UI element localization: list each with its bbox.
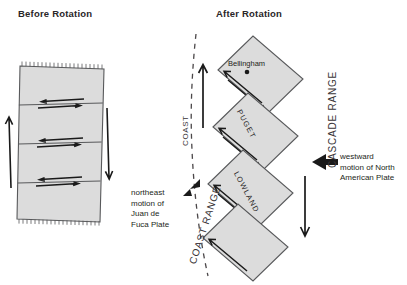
east-side-down-arrow	[301, 176, 310, 236]
coast-uplift-arrow	[199, 65, 208, 129]
juan-de-fuca-arrow	[183, 179, 200, 196]
annotation-north-american-plate: westward motion of North American Plate	[340, 152, 395, 184]
region-label-cascade-range: CASCADE RANGE	[327, 71, 338, 168]
juan-de-fuca-arrowhead	[183, 179, 200, 196]
rotated-block-4	[203, 204, 288, 281]
figure-canvas: Before Rotation After Rotation	[0, 0, 407, 285]
bellingham-city-dot	[245, 70, 250, 75]
region-label-coast: COAST	[181, 115, 190, 146]
bellingham-label: Bellingham	[228, 59, 265, 68]
annotation-juan-de-fuca-plate: northeast motion of Juan de Fuca Plate	[131, 188, 169, 230]
rotated-block-1	[218, 36, 303, 113]
